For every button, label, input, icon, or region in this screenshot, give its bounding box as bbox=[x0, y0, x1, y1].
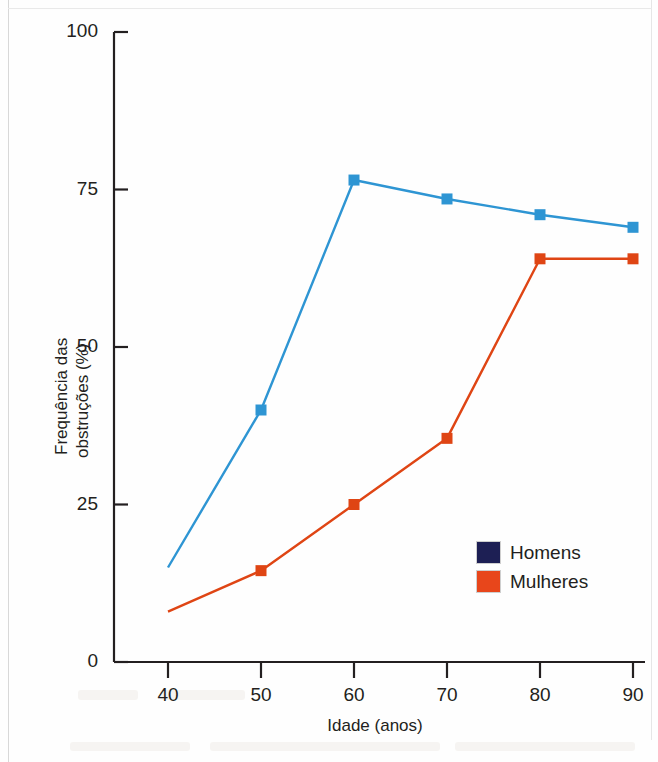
data-point-marker bbox=[442, 193, 453, 204]
x-tick-label: 70 bbox=[424, 684, 470, 706]
x-tick-label: 40 bbox=[145, 684, 191, 706]
data-point-marker bbox=[349, 499, 360, 510]
data-point-marker bbox=[256, 565, 267, 576]
line-chart: 0255075100 405060708090 Idade (anos) Fre… bbox=[0, 0, 658, 762]
y-tick-label: 100 bbox=[52, 20, 98, 42]
chart-canvas bbox=[0, 0, 658, 762]
x-axis-ticks bbox=[168, 662, 633, 678]
legend-swatch-mulheres bbox=[476, 570, 501, 593]
legend-item-mulheres[interactable]: Mulheres bbox=[476, 567, 588, 596]
series-line-homens bbox=[168, 180, 633, 567]
data-point-marker bbox=[349, 175, 360, 186]
x-tick-label: 80 bbox=[517, 684, 563, 706]
y-axis-title-line2: obstruções (%) bbox=[73, 344, 93, 458]
legend-label-mulheres: Mulheres bbox=[510, 572, 588, 591]
y-tick-label: 75 bbox=[52, 178, 98, 200]
data-point-marker bbox=[256, 405, 267, 416]
x-tick-label: 60 bbox=[331, 684, 377, 706]
x-tick-label: 90 bbox=[610, 684, 656, 706]
legend-label-homens: Homens bbox=[510, 543, 581, 562]
chart-page: 0255075100 405060708090 Idade (anos) Fre… bbox=[0, 0, 658, 762]
y-tick-label: 0 bbox=[52, 650, 98, 672]
legend-item-homens[interactable]: Homens bbox=[476, 538, 588, 567]
y-tick-label: 25 bbox=[52, 493, 98, 515]
data-point-marker bbox=[628, 222, 639, 233]
x-axis-title: Idade (anos) bbox=[255, 716, 495, 736]
data-point-marker bbox=[535, 253, 546, 264]
y-axis-ticks bbox=[114, 32, 128, 662]
data-point-marker bbox=[628, 253, 639, 264]
data-point-marker bbox=[442, 433, 453, 444]
chart-legend: Homens Mulheres bbox=[476, 538, 588, 596]
x-tick-label: 50 bbox=[238, 684, 284, 706]
data-point-marker bbox=[535, 209, 546, 220]
y-axis-title-line1: Frequência das bbox=[52, 338, 72, 455]
legend-swatch-homens bbox=[476, 541, 501, 564]
